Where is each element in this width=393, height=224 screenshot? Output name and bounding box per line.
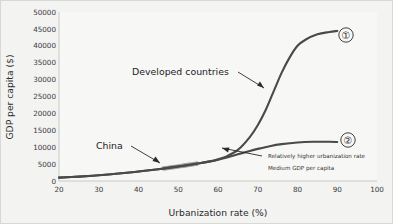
y-tick-20000: 20000 bbox=[33, 109, 56, 118]
y-tick-50000: 50000 bbox=[33, 8, 56, 17]
x-tick-90: 90 bbox=[333, 185, 343, 194]
chart-canvas: 0500010000150002000025000300003500040000… bbox=[0, 0, 393, 224]
y-tick-25000: 25000 bbox=[33, 92, 56, 101]
x-axis-title: Urbanization rate (%) bbox=[169, 207, 268, 218]
note-medium-gdp: Medium GDP per capita bbox=[268, 165, 334, 172]
x-tick-100: 100 bbox=[370, 185, 384, 194]
x-tick-50: 50 bbox=[174, 185, 184, 194]
x-axis-tick-labels: 2030405060708090100 bbox=[54, 185, 384, 194]
y-tick-35000: 35000 bbox=[33, 58, 56, 67]
y-tick-5000: 5000 bbox=[38, 160, 57, 169]
chart-figure: 0500010000150002000025000300003500040000… bbox=[0, 0, 393, 224]
y-tick-10000: 10000 bbox=[33, 143, 56, 152]
x-tick-30: 30 bbox=[94, 185, 104, 194]
y-tick-15000: 15000 bbox=[33, 126, 56, 135]
x-tick-60: 60 bbox=[213, 185, 223, 194]
x-tick-40: 40 bbox=[134, 185, 144, 194]
marker-label-1: ① bbox=[342, 30, 351, 41]
y-axis-tick-labels: 0500010000150002000025000300003500040000… bbox=[33, 8, 56, 186]
x-tick-70: 70 bbox=[253, 185, 263, 194]
y-tick-30000: 30000 bbox=[33, 75, 56, 84]
x-tick-20: 20 bbox=[54, 185, 64, 194]
annotation-developed-countries: Developed countries bbox=[132, 66, 229, 77]
y-tick-40000: 40000 bbox=[33, 41, 56, 50]
note-higher-urbanization: Relatively higher urbanization rate bbox=[268, 153, 366, 160]
y-tick-45000: 45000 bbox=[33, 25, 56, 34]
annotation-china: China bbox=[96, 140, 123, 151]
marker-label-2: ② bbox=[344, 135, 353, 146]
y-axis-title: GDP per capita ($) bbox=[4, 54, 15, 139]
x-tick-80: 80 bbox=[293, 185, 303, 194]
